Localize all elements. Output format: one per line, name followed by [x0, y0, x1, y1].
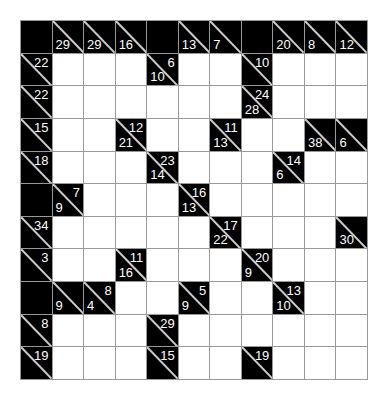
- clue-cell: 2428: [242, 86, 273, 118]
- across-clue: 22: [34, 56, 48, 69]
- entry-cell[interactable]: [210, 347, 241, 379]
- entry-cell[interactable]: [336, 315, 367, 347]
- clue-cell: 1613: [179, 184, 210, 216]
- entry-cell[interactable]: [210, 86, 241, 118]
- entry-cell[interactable]: [147, 217, 178, 249]
- entry-cell[interactable]: [242, 119, 273, 151]
- entry-cell[interactable]: [210, 184, 241, 216]
- entry-cell[interactable]: [273, 347, 304, 379]
- entry-cell[interactable]: [305, 217, 336, 249]
- entry-cell[interactable]: [116, 217, 147, 249]
- entry-cell[interactable]: [242, 217, 273, 249]
- blocked-cell: [21, 21, 52, 53]
- entry-cell[interactable]: [147, 119, 178, 151]
- entry-cell[interactable]: [179, 54, 210, 86]
- down-clue: 21: [119, 136, 133, 149]
- entry-cell[interactable]: [53, 315, 84, 347]
- entry-cell[interactable]: [273, 119, 304, 151]
- entry-cell[interactable]: [179, 347, 210, 379]
- entry-cell[interactable]: [210, 249, 241, 281]
- entry-cell[interactable]: [53, 347, 84, 379]
- entry-cell[interactable]: [116, 184, 147, 216]
- entry-cell[interactable]: [53, 249, 84, 281]
- across-clue: 15: [34, 121, 48, 134]
- down-clue: 9: [182, 299, 189, 312]
- clue-cell: 29: [84, 21, 115, 53]
- entry-cell[interactable]: [305, 282, 336, 314]
- entry-cell[interactable]: [84, 217, 115, 249]
- entry-cell[interactable]: [179, 315, 210, 347]
- clue-cell: 20: [273, 21, 304, 53]
- entry-cell[interactable]: [305, 184, 336, 216]
- down-clue: 13: [182, 38, 196, 51]
- entry-cell[interactable]: [305, 152, 336, 184]
- entry-cell[interactable]: [84, 315, 115, 347]
- entry-cell[interactable]: [179, 119, 210, 151]
- entry-cell[interactable]: [53, 119, 84, 151]
- entry-cell[interactable]: [116, 315, 147, 347]
- entry-cell[interactable]: [242, 152, 273, 184]
- across-clue: 34: [34, 219, 48, 232]
- clue-cell: 59: [179, 282, 210, 314]
- clue-cell: 1310: [273, 282, 304, 314]
- entry-cell[interactable]: [116, 282, 147, 314]
- entry-cell[interactable]: [179, 86, 210, 118]
- entry-cell[interactable]: [53, 217, 84, 249]
- entry-cell[interactable]: [53, 86, 84, 118]
- clue-cell: 12: [336, 21, 367, 53]
- entry-cell[interactable]: [116, 86, 147, 118]
- entry-cell[interactable]: [336, 54, 367, 86]
- entry-cell[interactable]: [273, 86, 304, 118]
- entry-cell[interactable]: [84, 86, 115, 118]
- entry-cell[interactable]: [84, 54, 115, 86]
- entry-cell[interactable]: [179, 249, 210, 281]
- across-clue: 19: [34, 349, 48, 362]
- down-clue: 4: [87, 299, 94, 312]
- entry-cell[interactable]: [305, 54, 336, 86]
- down-clue: 10: [150, 70, 164, 83]
- entry-cell[interactable]: [179, 152, 210, 184]
- entry-cell[interactable]: [336, 249, 367, 281]
- clue-cell: 209: [242, 249, 273, 281]
- entry-cell[interactable]: [84, 152, 115, 184]
- entry-cell[interactable]: [210, 315, 241, 347]
- entry-cell[interactable]: [242, 315, 273, 347]
- entry-cell[interactable]: [273, 217, 304, 249]
- entry-cell[interactable]: [336, 86, 367, 118]
- entry-cell[interactable]: [242, 184, 273, 216]
- entry-cell[interactable]: [305, 315, 336, 347]
- entry-cell[interactable]: [116, 54, 147, 86]
- clue-cell: 10: [242, 54, 273, 86]
- entry-cell[interactable]: [273, 54, 304, 86]
- entry-cell[interactable]: [336, 282, 367, 314]
- entry-cell[interactable]: [210, 282, 241, 314]
- entry-cell[interactable]: [53, 152, 84, 184]
- entry-cell[interactable]: [336, 152, 367, 184]
- entry-cell[interactable]: [84, 347, 115, 379]
- entry-cell[interactable]: [53, 54, 84, 86]
- entry-cell[interactable]: [305, 249, 336, 281]
- clue-cell: 146: [273, 152, 304, 184]
- entry-cell[interactable]: [273, 184, 304, 216]
- entry-cell[interactable]: [116, 152, 147, 184]
- entry-cell[interactable]: [242, 282, 273, 314]
- entry-cell[interactable]: [273, 249, 304, 281]
- entry-cell[interactable]: [273, 315, 304, 347]
- entry-cell[interactable]: [147, 249, 178, 281]
- entry-cell[interactable]: [84, 184, 115, 216]
- entry-cell[interactable]: [116, 347, 147, 379]
- entry-cell[interactable]: [210, 152, 241, 184]
- entry-cell[interactable]: [305, 347, 336, 379]
- entry-cell[interactable]: [179, 217, 210, 249]
- entry-cell[interactable]: [305, 86, 336, 118]
- down-clue: 12: [339, 38, 353, 51]
- entry-cell[interactable]: [210, 54, 241, 86]
- entry-cell[interactable]: [84, 119, 115, 151]
- entry-cell[interactable]: [147, 86, 178, 118]
- entry-cell[interactable]: [147, 184, 178, 216]
- entry-cell[interactable]: [336, 184, 367, 216]
- entry-cell[interactable]: [147, 282, 178, 314]
- entry-cell[interactable]: [84, 249, 115, 281]
- entry-cell[interactable]: [336, 347, 367, 379]
- across-clue: 20: [255, 251, 269, 264]
